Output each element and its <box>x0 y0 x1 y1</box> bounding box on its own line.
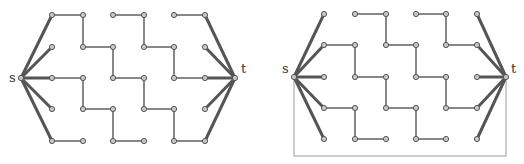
graph-node <box>49 138 54 143</box>
sink-edge <box>205 47 235 78</box>
sink-node <box>503 74 508 79</box>
sink-edge <box>205 78 235 141</box>
left-figure: s t <box>9 12 247 143</box>
right-grid-edges <box>324 14 477 139</box>
graph-node <box>474 11 479 16</box>
graph-node <box>443 136 448 141</box>
graph-node <box>383 42 388 47</box>
graph-node <box>171 44 176 49</box>
source-node <box>291 74 296 79</box>
left-grid-edges <box>52 15 205 141</box>
left-sink-label: t <box>241 61 247 76</box>
graph-node <box>413 74 418 79</box>
graph-node <box>171 138 176 143</box>
graph-node <box>383 74 388 79</box>
graph-node <box>352 74 357 79</box>
graph-node <box>80 75 85 80</box>
graph-node <box>171 75 176 80</box>
graph-node <box>80 12 85 17</box>
right-source-label: s <box>282 61 289 76</box>
source-node <box>18 75 23 80</box>
graph-node <box>202 44 207 49</box>
graph-node <box>110 106 115 111</box>
graph-node <box>49 44 54 49</box>
graph-node <box>413 136 418 141</box>
graph-node <box>443 105 448 110</box>
sink-edge <box>477 45 506 77</box>
graph-node <box>321 136 326 141</box>
graph-node <box>474 74 479 79</box>
source-edge <box>294 45 324 77</box>
graph-node <box>321 74 326 79</box>
graph-node <box>110 75 115 80</box>
sink-node <box>232 75 237 80</box>
graph-node <box>474 42 479 47</box>
right-box-edges <box>294 77 506 156</box>
graph-node <box>49 75 54 80</box>
graph-node <box>383 105 388 110</box>
graph-node <box>321 42 326 47</box>
graph-node <box>383 11 388 16</box>
source-edge <box>21 47 52 78</box>
right-sink-label: t <box>511 61 517 76</box>
graph-node <box>141 138 146 143</box>
source-edge <box>21 15 52 78</box>
graph-node <box>49 106 54 111</box>
graph-node <box>413 11 418 16</box>
graph-node <box>202 106 207 111</box>
graph-node <box>141 44 146 49</box>
graph-node <box>110 44 115 49</box>
sink-edge <box>477 77 506 108</box>
sink-edge <box>205 15 235 78</box>
graph-node <box>202 138 207 143</box>
diagram-canvas: s t s t <box>0 0 524 164</box>
sink-edge <box>477 77 506 139</box>
graph-node <box>141 106 146 111</box>
source-edge <box>294 14 324 77</box>
left-source-label: s <box>9 70 16 85</box>
return-path-edge <box>294 77 506 156</box>
graph-node <box>352 136 357 141</box>
graph-node <box>141 75 146 80</box>
graph-node <box>171 106 176 111</box>
graph-node <box>474 105 479 110</box>
graph-node <box>383 136 388 141</box>
graph-node <box>80 44 85 49</box>
source-edge <box>21 78 52 109</box>
graph-node <box>80 106 85 111</box>
graph-node <box>352 105 357 110</box>
graph-node <box>49 12 54 17</box>
graph-node <box>110 12 115 17</box>
graph-node <box>321 105 326 110</box>
sink-edge <box>205 78 235 109</box>
source-edge <box>21 78 52 141</box>
graph-node <box>443 11 448 16</box>
graph-node <box>202 12 207 17</box>
graph-node <box>413 105 418 110</box>
graph-node <box>352 11 357 16</box>
graph-node <box>352 42 357 47</box>
graph-node <box>202 75 207 80</box>
graph-node <box>413 42 418 47</box>
graph-node <box>80 138 85 143</box>
graph-node <box>110 138 115 143</box>
graph-node <box>443 74 448 79</box>
graph-node <box>321 11 326 16</box>
graph-node <box>171 12 176 17</box>
right-nodes <box>291 11 508 141</box>
source-edge <box>294 77 324 139</box>
right-figure: s t <box>282 11 517 156</box>
source-edge <box>294 77 324 108</box>
sink-edge <box>477 14 506 77</box>
graph-node <box>141 12 146 17</box>
graph-node <box>443 42 448 47</box>
graph-node <box>474 136 479 141</box>
